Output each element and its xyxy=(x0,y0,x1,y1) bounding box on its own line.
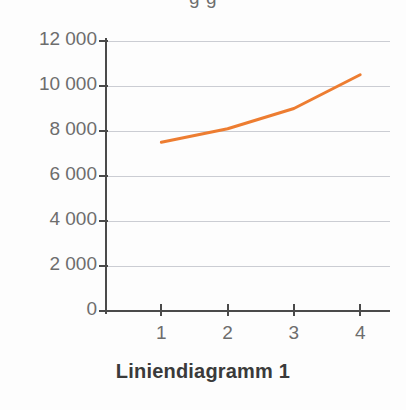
line-chart-figure: g g 12 00010 0008 0006 0004 0002 0000 12… xyxy=(0,0,406,410)
chart-caption: Liniendiagramm 1 xyxy=(0,360,406,383)
series-line xyxy=(161,75,360,143)
data-series-layer xyxy=(0,0,406,410)
